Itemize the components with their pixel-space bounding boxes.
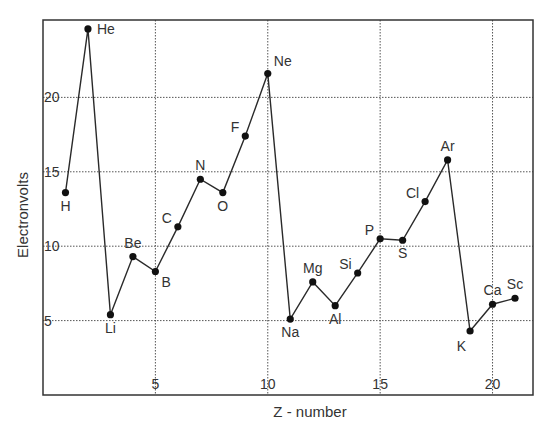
- element-label-sc: Sc: [507, 276, 523, 292]
- data-point-n: [197, 176, 204, 183]
- data-point-mg: [309, 278, 316, 285]
- data-point-he: [84, 25, 91, 32]
- data-point-al: [332, 302, 339, 309]
- element-label-n: N: [195, 157, 205, 173]
- data-point-be: [129, 253, 136, 260]
- x-tick-label: 5: [151, 376, 159, 392]
- data-point-h: [62, 189, 69, 196]
- element-label-al: Al: [329, 311, 341, 327]
- element-label-ne: Ne: [274, 53, 292, 69]
- element-label-s: S: [398, 245, 407, 261]
- data-point-b: [152, 268, 159, 275]
- tick-labels: 51015205101520: [44, 89, 501, 392]
- ionization-energy-chart: 51015205101520 HHeLiBeBCNOFNeNaMgAlSiPSC…: [0, 0, 550, 440]
- element-label-mg: Mg: [303, 260, 322, 276]
- data-point-sc: [511, 295, 518, 302]
- data-point-k: [466, 327, 473, 334]
- data-point-p: [377, 235, 384, 242]
- data-point-s: [399, 237, 406, 244]
- y-tick-label: 20: [44, 89, 60, 105]
- element-label-he: He: [97, 21, 115, 37]
- data-point-o: [219, 189, 226, 196]
- element-label-b: B: [161, 274, 170, 290]
- data-point-ar: [444, 156, 451, 163]
- element-label-be: Be: [124, 235, 141, 251]
- data-point-c: [174, 223, 181, 230]
- element-label-o: O: [217, 198, 228, 214]
- data-point-ca: [489, 301, 496, 308]
- data-point-li: [107, 311, 114, 318]
- x-tick-label: 15: [372, 376, 388, 392]
- y-tick-label: 10: [44, 238, 60, 254]
- element-label-c: C: [162, 210, 172, 226]
- x-axis-label: Z - number: [273, 403, 346, 420]
- y-tick-label: 5: [44, 313, 52, 329]
- data-point-ne: [264, 70, 271, 77]
- y-axis-label: Electronvolts: [14, 172, 31, 258]
- data-point-si: [354, 269, 361, 276]
- series-line: [65, 29, 515, 331]
- element-label-f: F: [231, 119, 240, 135]
- element-label-k: K: [457, 338, 467, 354]
- element-label-cl: Cl: [406, 185, 419, 201]
- y-tick-label: 15: [44, 164, 60, 180]
- element-labels: HHeLiBeBCNOFNeNaMgAlSiPSClArKCaSc: [60, 21, 523, 354]
- element-label-p: P: [365, 222, 374, 238]
- element-label-si: Si: [339, 256, 351, 272]
- element-label-ar: Ar: [441, 138, 455, 154]
- x-tick-label: 10: [260, 376, 276, 392]
- element-label-li: Li: [105, 320, 116, 336]
- data-point-f: [242, 132, 249, 139]
- data-point-na: [287, 316, 294, 323]
- element-label-h: H: [60, 198, 70, 214]
- element-label-na: Na: [281, 324, 299, 340]
- element-label-ca: Ca: [484, 282, 502, 298]
- data-point-cl: [422, 198, 429, 205]
- x-tick-label: 20: [485, 376, 501, 392]
